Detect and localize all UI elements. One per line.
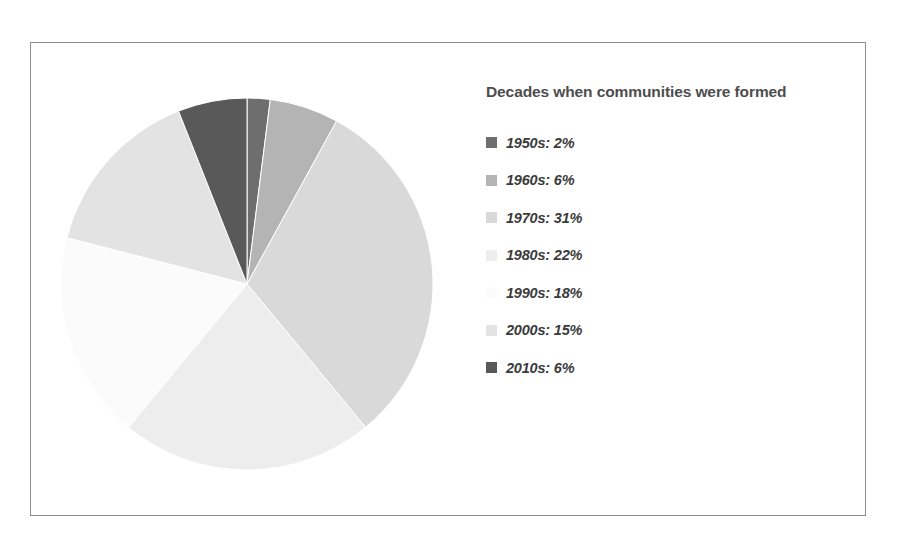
legend-swatch-1980s <box>486 250 497 261</box>
legend-item-2000s: 2000s: 15% <box>486 319 856 342</box>
legend-label-1950s: 1950s: 2% <box>506 135 574 151</box>
legend-swatch-1950s <box>486 137 497 148</box>
pie-slices: 1950s: 2%1960s: 6%1970s: 31%1980s: 22%19… <box>61 98 433 470</box>
legend-label-1980s: 1980s: 22% <box>506 247 582 263</box>
legend-label-1990s: 1990s: 18% <box>506 285 582 301</box>
legend-item-2010s: 2010s: 6% <box>486 356 856 379</box>
legend-item-1990s: 1990s: 18% <box>486 281 856 304</box>
legend-item-1970s: 1970s: 31% <box>486 206 856 229</box>
legend-swatch-1970s <box>486 212 497 223</box>
legend-swatch-1990s <box>486 287 497 298</box>
legend-swatch-2010s <box>486 362 497 373</box>
legend-swatch-2000s <box>486 325 497 336</box>
legend-label-2010s: 2010s: 6% <box>506 360 574 376</box>
legend-item-1950s: 1950s: 2% <box>486 131 856 154</box>
chart-legend: Decades when communities were formed 195… <box>486 83 856 394</box>
legend-label-1970s: 1970s: 31% <box>506 210 582 226</box>
legend-title: Decades when communities were formed <box>486 83 856 101</box>
legend-swatch-1960s <box>486 175 497 186</box>
legend-items: 1950s: 2%1960s: 6%1970s: 31%1980s: 22%19… <box>486 131 856 379</box>
pie-chart: 1950s: 2%1960s: 6%1970s: 31%1980s: 22%19… <box>59 96 435 472</box>
legend-label-2000s: 2000s: 15% <box>506 322 582 338</box>
figure-frame: 1950s: 2%1960s: 6%1970s: 31%1980s: 22%19… <box>30 42 866 516</box>
legend-item-1980s: 1980s: 22% <box>486 244 856 267</box>
figure-root: 1950s: 2%1960s: 6%1970s: 31%1980s: 22%19… <box>0 0 906 548</box>
pie-svg: 1950s: 2%1960s: 6%1970s: 31%1980s: 22%19… <box>59 96 435 472</box>
legend-label-1960s: 1960s: 6% <box>506 172 574 188</box>
legend-item-1960s: 1960s: 6% <box>486 169 856 192</box>
